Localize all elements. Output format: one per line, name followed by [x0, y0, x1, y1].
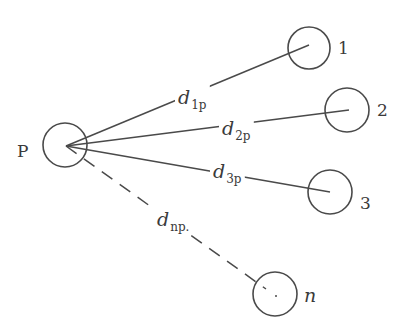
- distance-subscript: 2p: [235, 129, 251, 143]
- distance-diagram: P 1 2 3 n d1p d2p d3p dnp.: [0, 0, 406, 333]
- distance-symbol: d: [222, 117, 234, 139]
- node-label-1: 1: [338, 38, 349, 58]
- node-circle-n: [253, 272, 297, 316]
- distance-subscript: 3p: [226, 172, 242, 186]
- node-label-p: P: [17, 141, 28, 161]
- edges: [66, 45, 349, 289]
- node-circle-1: [288, 27, 330, 69]
- node-label-n: n: [304, 284, 316, 306]
- node-label-3: 3: [360, 193, 371, 213]
- distance-symbol: d: [157, 208, 169, 230]
- distance-symbol: d: [178, 86, 190, 108]
- center-dot-n: [275, 295, 277, 297]
- target-nodes: 1 2 3 n: [253, 27, 388, 316]
- distance-symbol: d: [213, 160, 225, 182]
- distance-subscript: np.: [170, 220, 189, 234]
- edge-p-to-3: [66, 146, 330, 192]
- node-circle-p: [43, 123, 87, 167]
- node-label-2: 2: [377, 100, 388, 120]
- distance-subscript: 1p: [191, 98, 207, 112]
